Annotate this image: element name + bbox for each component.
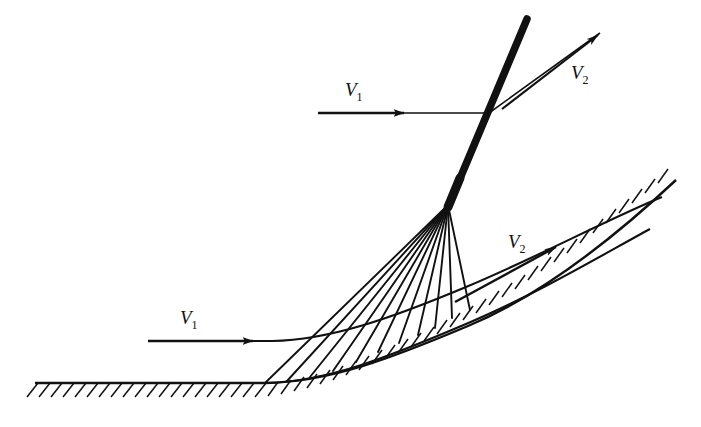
label-v2-lower-subscript: 2 (520, 242, 526, 256)
streamline-upper-through-shock (398, 33, 600, 113)
mach-wave-line (333, 205, 448, 371)
mach-wave-line (356, 205, 448, 362)
velocity-arrow-v2-lower (455, 247, 556, 302)
shock-wave-base-thickening (448, 178, 460, 207)
label-v1-lower: V1 (180, 307, 198, 332)
wall-surface-group (27, 169, 676, 397)
diagram-canvas: V1 V2 V1 V2 (0, 0, 701, 427)
label-v1-lower-subscript: 1 (192, 318, 198, 332)
gas-dynamics-diagram: V1 V2 V1 V2 (0, 0, 701, 427)
streamline-middle (200, 197, 662, 341)
mach-wave-line (287, 205, 448, 381)
label-v1-upper-subscript: 1 (357, 90, 363, 104)
inclined-wall-hatching (268, 169, 668, 396)
label-v1-upper: V1 (345, 79, 363, 104)
label-group: V1 V2 V1 V2 (180, 62, 589, 332)
mach-wave-fan (265, 205, 470, 383)
mach-wave-line (265, 205, 448, 383)
label-v2-upper: V2 (571, 62, 589, 87)
flat-wall-hatching (27, 383, 266, 397)
label-v2-lower: V2 (508, 231, 526, 256)
label-v2-upper-subscript: 2 (583, 73, 589, 87)
